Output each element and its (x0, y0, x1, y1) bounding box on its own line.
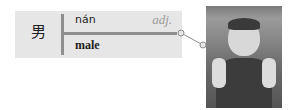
photo-fist-left (212, 58, 226, 88)
boy-photo (206, 6, 282, 108)
photo-hair (228, 18, 260, 30)
photo-fist-right (262, 58, 276, 88)
